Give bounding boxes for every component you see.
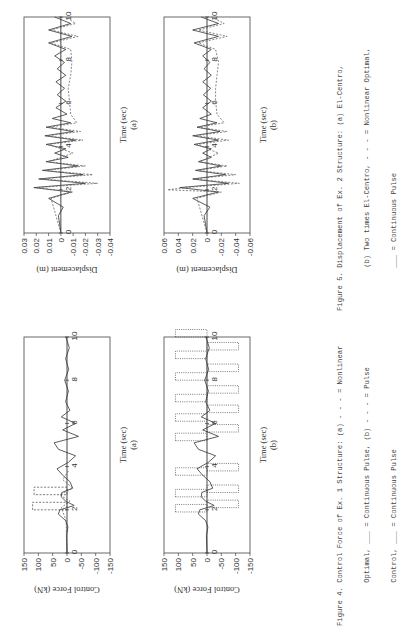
fig4b-xtick-label: 2 <box>210 506 219 511</box>
fig5a-x-axis-title: Time (sec) <box>118 107 128 143</box>
figure5-chart-a: 0.030.020.010-0.01-0.02-0.03-0.040246810… <box>20 11 140 281</box>
fig5a-ytick-label: -0.04 <box>106 237 115 256</box>
fig4b-y-axis-title: Control Force (kN) <box>174 585 240 595</box>
fig5b-sublabel: (b) <box>268 120 278 130</box>
fig4b-xtick-label: 8 <box>210 376 219 381</box>
figure4-caption: Figure 4. Control Force of Ex. 1 Structu… <box>318 346 402 626</box>
fig5b-ytick-label: 0.02 <box>189 237 198 253</box>
fig4b-ytick-label: 150 <box>160 557 169 571</box>
fig5b-xtick-label: 6 <box>210 100 219 105</box>
figure5-caption: Figure 5. Displacement of Ex. 2 Structur… <box>318 48 402 311</box>
fig5b-ytick-label: 0.06 <box>160 237 169 253</box>
fig4b-xtick-label: 0 <box>210 549 219 554</box>
fig4a-xtick-label: 10 <box>70 331 79 340</box>
fig4b-pulse-bar <box>207 364 239 372</box>
fig5a-ytick-label: 0.03 <box>20 237 29 253</box>
fig4a-y-axis-title: Control Force (kN) <box>34 585 100 595</box>
figure5-caption-line-2: (b) Two times El-Centro, - - - = Nonline… <box>363 48 372 311</box>
fig4b-ytick-label: 50 <box>189 557 198 566</box>
fig4a-xtick-label: 2 <box>70 506 79 511</box>
fig4b-pulse-bar <box>175 489 207 497</box>
figure4-caption-line-1: Figure 4. Control Force of Ex. 1 Structu… <box>336 346 345 626</box>
fig5a-plot: 0.030.020.010-0.01-0.02-0.03-0.040246810… <box>20 11 140 281</box>
fig5a-ytick-label: -0.03 <box>94 237 103 256</box>
fig4a-ytick-label: 50 <box>49 557 58 566</box>
fig4b-sublabel: (b) <box>268 440 278 450</box>
fig5a-series-nonlinear-optimal <box>36 17 97 233</box>
figure5-caption-line-1: Figure 5. Displacement of Ex. 2 Structur… <box>336 48 345 311</box>
fig5a-xtick-label: 4 <box>64 143 73 148</box>
fig5b-y-axis-title: Displacement (m) <box>176 265 237 275</box>
fig5b-ytick-label: -0.04 <box>232 237 241 256</box>
fig4b-plot: 150100500-50-100-1500246810Control Force… <box>160 331 280 601</box>
fig5b-xtick-label: 0 <box>210 229 219 234</box>
fig4a-xtick-label: 4 <box>70 463 79 468</box>
fig5a-plot-frame <box>24 17 110 233</box>
fig5a-ytick-label: 0 <box>57 237 66 242</box>
fig5b-ytick-label: -0.06 <box>246 237 255 256</box>
fig4a-ytick-label: 0 <box>63 557 72 562</box>
fig4b-ytick-label: -100 <box>232 557 241 574</box>
fig4a-ytick-label: 150 <box>20 557 29 571</box>
fig4b-series-continuous-pulse <box>194 337 218 553</box>
fig5b-series-continuous-pulse <box>180 17 229 233</box>
fig4b-pulse-bar <box>207 405 239 413</box>
figure5-caption-line-3: ___ = Continuous Pulse <box>390 48 399 311</box>
fig4a-pulse-bar <box>33 502 67 510</box>
figure4-chart-b: 150100500-50-100-1500246810Control Force… <box>160 331 280 601</box>
fig5a-xtick-label: 2 <box>64 186 73 191</box>
figure4-caption-line-3: Control, ___ = Continuous Pulse <box>390 346 399 626</box>
fig4b-pulse-bar <box>175 330 207 338</box>
fig4b-pulse-bar <box>175 468 207 476</box>
fig4b-ytick-label: -150 <box>246 557 255 574</box>
fig4a-ytick-label: -100 <box>92 557 101 574</box>
fig5a-y-axis-title: Displacement (m) <box>36 265 97 275</box>
fig5b-x-axis-title: Time (sec) <box>258 107 268 143</box>
fig5a-ytick-label: -0.01 <box>69 237 78 256</box>
fig5b-ytick-label: -0.02 <box>217 237 226 256</box>
fig4b-x-axis-title: Time (sec) <box>258 427 268 463</box>
fig5a-ytick-label: 0.01 <box>45 237 54 253</box>
fig4a-plot: 150100500-50-100-1500246810Control Force… <box>20 331 140 601</box>
fig4a-xtick-label: 0 <box>70 549 79 554</box>
fig4b-xtick-label: 10 <box>210 331 219 340</box>
fig4a-xtick-label: 8 <box>70 376 79 381</box>
fig4b-ytick-label: -50 <box>217 557 226 569</box>
fig4b-ytick-label: 100 <box>174 557 183 571</box>
fig5b-plot: 0.060.040.020-0.02-0.04-0.060246810Displ… <box>160 11 280 281</box>
figure5-chart-b: 0.060.040.020-0.02-0.04-0.060246810Displ… <box>160 11 280 281</box>
fig5a-ytick-label: -0.02 <box>81 237 90 256</box>
fig4a-sublabel: (a) <box>128 440 138 450</box>
fig4b-pulse-bar <box>207 386 239 394</box>
fig4b-pulse-bar <box>175 351 207 359</box>
fig5a-sublabel: (a) <box>128 120 138 130</box>
fig4a-ytick-label: 100 <box>34 557 43 571</box>
fig5b-xtick-label: 2 <box>210 186 219 191</box>
fig4b-ytick-label: 0 <box>203 557 212 562</box>
figure4-caption-line-2: Optimal, ___ = Continuous Pulse, (b) - -… <box>363 346 372 626</box>
fig4a-ytick-label: -150 <box>106 557 115 574</box>
fig5b-xtick-label: 4 <box>210 143 219 148</box>
fig4b-pulse-bar <box>175 373 207 381</box>
figure4-chart-a: 150100500-50-100-1500246810Control Force… <box>20 331 140 601</box>
fig4b-pulse-bar <box>207 342 239 350</box>
fig4a-x-axis-title: Time (sec) <box>118 427 128 463</box>
fig4a-ytick-label: -50 <box>77 557 86 569</box>
fig5b-series-nonlinear-optimal <box>168 17 240 233</box>
fig4b-pulse-bar <box>175 504 207 512</box>
fig5a-series-continuous-pulse <box>34 17 86 233</box>
fig4b-pulse-bar <box>175 433 207 441</box>
fig5b-ytick-label: 0 <box>203 237 212 242</box>
fig5a-ytick-label: 0.02 <box>32 237 41 253</box>
fig5b-ytick-label: 0.04 <box>174 237 183 253</box>
fig5a-xtick-label: 0 <box>64 229 73 234</box>
fig4b-pulse-bar <box>175 394 207 402</box>
